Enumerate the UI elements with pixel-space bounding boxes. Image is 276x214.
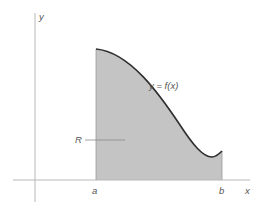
curve-label: y = f(x) [148,80,178,91]
area-under-curve-diagram: y y = f(x) R a b x [0,0,276,214]
a-label: a [92,185,97,196]
y-axis-label: y [38,11,45,22]
region-r-label: R [75,134,82,145]
region-r-fill [96,49,222,180]
b-label: b [219,185,224,196]
x-axis-label: x [244,185,251,196]
